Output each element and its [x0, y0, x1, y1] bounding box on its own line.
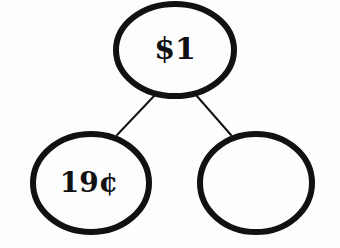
tree-diagram: $1 19¢ [0, 0, 340, 248]
edge-layer [117, 95, 231, 135]
diagram-canvas: $1 19¢ [0, 0, 340, 248]
root-node-label: $1 [154, 31, 196, 66]
edge-root-to-left-child [117, 95, 155, 135]
left-child-node-label: 19¢ [60, 166, 118, 199]
right-child-node[interactable] [200, 134, 312, 232]
edge-root-to-right-child [196, 95, 231, 135]
